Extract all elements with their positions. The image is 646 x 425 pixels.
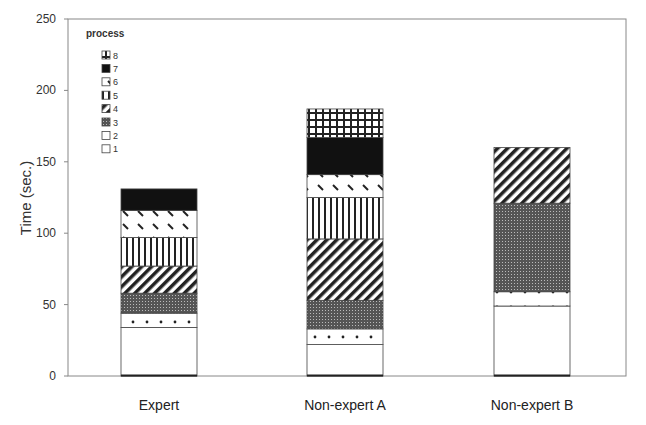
bar-non-expert-b — [494, 148, 570, 376]
legend-swatch-process-4 — [102, 105, 110, 113]
stacked-bar-chart: 050100150200250 Time (sec.) ExpertNon-ex… — [0, 0, 646, 425]
y-tick-label: 200 — [36, 83, 56, 97]
legend-title: process — [86, 28, 125, 39]
legend-swatch-process-1 — [102, 145, 110, 153]
bar-segment-process-7 — [307, 138, 383, 175]
legend-swatch-process-2 — [102, 131, 110, 139]
bar-segment-process-1 — [307, 345, 383, 376]
bar-non-expert-a — [307, 109, 383, 376]
bar-segment-process-4 — [121, 266, 197, 293]
x-category-label: Non-expert A — [304, 397, 386, 413]
y-axis-title: Time (sec.) — [17, 161, 34, 235]
y-tick-label: 100 — [36, 226, 56, 240]
bar-segment-process-2 — [307, 329, 383, 345]
legend-label-process-6: 6 — [113, 77, 118, 87]
bar-segment-process-1 — [121, 327, 197, 376]
x-category-label: Non-expert B — [491, 397, 573, 413]
bar-segment-process-3 — [121, 293, 197, 313]
y-tick-label: 250 — [36, 12, 56, 26]
legend-label-process-8: 8 — [113, 51, 118, 61]
x-axis-labels: ExpertNon-expert ANon-expert B — [139, 397, 573, 413]
y-axis: 050100150200250 — [36, 12, 68, 383]
bar-segment-process-2 — [121, 313, 197, 327]
legend-label-process-2: 2 — [113, 131, 118, 141]
bar-expert — [121, 189, 197, 376]
legend-swatch-process-3 — [102, 118, 110, 126]
bar-segment-process-2 — [494, 292, 570, 306]
bar-segment-process-7 — [121, 189, 197, 210]
bar-segment-process-3 — [307, 300, 383, 329]
legend: process 87654321 — [86, 28, 125, 154]
legend-swatch-process-8 — [102, 51, 110, 59]
bars-group — [121, 109, 570, 376]
legend-label-process-1: 1 — [113, 144, 118, 154]
legend-swatch-process-6 — [102, 78, 110, 86]
bar-segment-process-4 — [307, 239, 383, 300]
x-category-label: Expert — [139, 397, 180, 413]
legend-swatch-process-7 — [102, 64, 110, 72]
legend-label-process-3: 3 — [113, 118, 118, 128]
bar-segment-process-6 — [307, 175, 383, 198]
bar-segment-process-5 — [121, 237, 197, 266]
legend-swatch-process-5 — [102, 91, 110, 99]
y-tick-label: 50 — [43, 298, 57, 312]
legend-label-process-5: 5 — [113, 91, 118, 101]
bar-segment-process-3 — [494, 203, 570, 292]
bar-segment-process-8 — [307, 109, 383, 138]
legend-label-process-7: 7 — [113, 64, 118, 74]
bar-segment-process-4 — [494, 148, 570, 204]
legend-label-process-4: 4 — [113, 104, 118, 114]
bar-segment-process-1 — [494, 306, 570, 376]
y-tick-label: 0 — [49, 369, 56, 383]
bar-segment-process-6 — [121, 210, 197, 237]
y-tick-label: 150 — [36, 155, 56, 169]
bar-segment-process-5 — [307, 198, 383, 239]
